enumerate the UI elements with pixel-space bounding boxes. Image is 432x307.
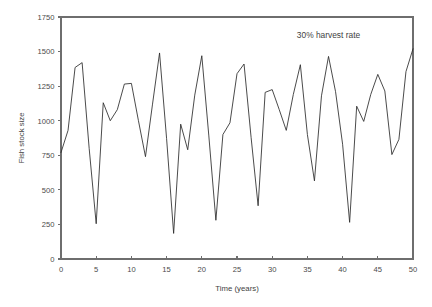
plot-frame-path <box>61 17 413 259</box>
x-tick-label: 35 <box>303 265 311 274</box>
y-tick-label: 750 <box>42 151 55 160</box>
x-tick-label: 25 <box>233 265 241 274</box>
x-tick-label: 50 <box>409 265 417 274</box>
x-tick-label: 5 <box>94 265 98 274</box>
plot-frame <box>61 17 413 259</box>
data-series-group <box>61 49 413 234</box>
x-axis-title: Time (years) <box>215 284 259 293</box>
y-tick-label: 1250 <box>38 82 55 91</box>
y-tick-label: 1500 <box>38 47 55 56</box>
x-tick-label: 15 <box>162 265 170 274</box>
x-tick-label: 40 <box>338 265 346 274</box>
x-tick-label: 45 <box>374 265 382 274</box>
x-tick-label: 20 <box>198 265 206 274</box>
x-tick-label: 30 <box>268 265 276 274</box>
y-tick-label: 1750 <box>38 13 55 22</box>
y-axis-ticks: 02505007501000125015001750 <box>38 13 61 264</box>
x-tick-label: 0 <box>59 265 63 274</box>
x-axis-ticks: 05101520253035404550 <box>59 256 417 275</box>
y-tick-label: 1000 <box>38 117 55 126</box>
y-tick-label: 0 <box>50 255 54 264</box>
y-axis-title: Fish stock size <box>17 112 26 163</box>
y-tick-label: 500 <box>42 186 55 195</box>
chart-canvas: 02505007501000125015001750 0510152025303… <box>0 0 432 307</box>
x-tick-label: 10 <box>127 265 135 274</box>
fish-stock-line-chart: 02505007501000125015001750 0510152025303… <box>0 0 432 307</box>
y-tick-label: 250 <box>42 220 55 229</box>
harvest-rate-annotation: 30% harvest rate <box>297 30 361 40</box>
series-fish-stock-size-line <box>61 49 413 234</box>
